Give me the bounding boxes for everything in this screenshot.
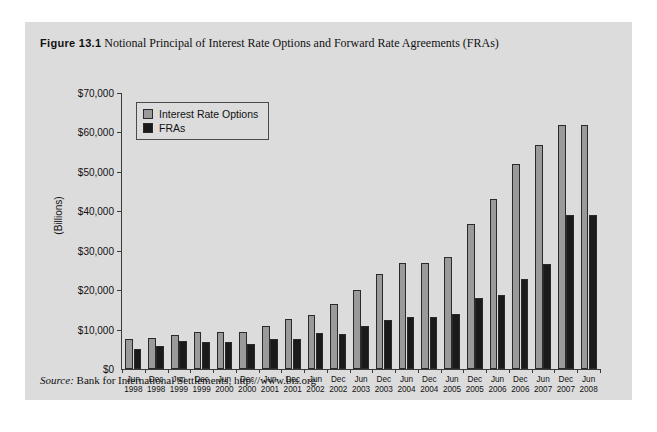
x-axis-tick-mark	[122, 369, 123, 373]
bar-group	[512, 93, 528, 369]
x-axis-tick-mark	[236, 369, 237, 373]
y-axis-tick-label: $30,000	[42, 245, 122, 256]
bar-interest-rate-options	[490, 199, 498, 369]
bar-group	[467, 93, 483, 369]
bar-fras	[134, 349, 142, 369]
bar-fras	[339, 334, 347, 369]
bar-interest-rate-options	[353, 290, 361, 369]
bar-interest-rate-options	[444, 257, 452, 369]
y-axis-tick-mark	[117, 330, 122, 331]
y-axis-tick-label: $20,000	[42, 285, 122, 296]
bar-group	[308, 93, 324, 369]
legend-item: FRAs	[143, 121, 258, 135]
bar-fras	[270, 339, 278, 369]
x-axis-tick-mark	[509, 369, 510, 373]
bar-group	[421, 93, 437, 369]
bar-fras	[407, 317, 415, 369]
x-axis-tick-mark	[441, 369, 442, 373]
source-word: Source:	[40, 374, 74, 386]
figure-title: Notional Principal of Interest Rate Opti…	[104, 36, 499, 50]
bar-group	[444, 93, 460, 369]
bar-fras	[475, 298, 483, 369]
bar-interest-rate-options	[535, 145, 543, 369]
bar-fras	[293, 339, 301, 369]
x-axis-tick-mark	[259, 369, 260, 373]
y-axis-tick-mark	[117, 290, 122, 291]
y-axis-tick-label: $70,000	[42, 88, 122, 99]
bar-interest-rate-options	[376, 274, 384, 369]
y-axis-tick-label: $0	[42, 364, 122, 375]
x-axis-tick-mark	[486, 369, 487, 373]
x-axis-tick-mark	[600, 369, 601, 373]
bar-interest-rate-options	[148, 338, 156, 369]
x-axis-tick-mark	[168, 369, 169, 373]
bar-interest-rate-options	[308, 315, 316, 369]
x-axis-tick-label-month: Jun	[572, 375, 606, 385]
x-axis-tick-mark	[395, 369, 396, 373]
bar-fras	[179, 341, 187, 369]
bar-group	[285, 93, 301, 369]
bar-fras	[361, 326, 369, 369]
bar-interest-rate-options	[285, 319, 293, 369]
bar-fras	[566, 215, 574, 369]
y-axis-tick-mark	[117, 132, 122, 133]
bar-interest-rate-options	[330, 304, 338, 369]
bar-interest-rate-options	[421, 263, 429, 369]
y-axis-tick-label: $60,000	[42, 127, 122, 138]
x-axis-tick-mark	[577, 369, 578, 373]
bar-group	[376, 93, 392, 369]
bar-interest-rate-options	[217, 332, 225, 369]
source-text: Bank for International Settlements, http…	[74, 374, 316, 386]
y-axis-tick-mark	[117, 172, 122, 173]
legend-item: Interest Rate Options	[143, 107, 258, 121]
x-axis-tick-mark	[281, 369, 282, 373]
bar-interest-rate-options	[399, 263, 407, 369]
x-axis-tick-label-year: 2008	[572, 385, 606, 395]
bar-fras	[543, 264, 551, 369]
bar-group	[353, 93, 369, 369]
bar-fras	[384, 320, 392, 369]
y-axis-tick-label: $40,000	[42, 206, 122, 217]
x-axis-tick-mark	[350, 369, 351, 373]
bar-group	[490, 93, 506, 369]
chart-area: (Billions) $70,000$60,000$50,000$40,000$…	[40, 60, 620, 365]
y-axis-tick-mark	[117, 211, 122, 212]
y-axis-tick-mark	[117, 93, 122, 94]
x-axis-tick-mark	[463, 369, 464, 373]
legend-swatch-fras	[143, 123, 153, 133]
x-axis-tick-mark	[532, 369, 533, 373]
x-axis-tick-mark	[554, 369, 555, 373]
bar-fras	[225, 342, 233, 369]
x-axis-tick-mark	[372, 369, 373, 373]
bar-group	[535, 93, 551, 369]
bar-fras	[452, 314, 460, 369]
y-axis-tick-label: $10,000	[42, 324, 122, 335]
bar-interest-rate-options	[558, 125, 566, 369]
bar-fras	[247, 344, 255, 369]
bar-interest-rate-options	[467, 224, 475, 369]
x-axis-tick-mark	[418, 369, 419, 373]
bar-fras	[156, 346, 164, 369]
figure-label: Figure 13.1	[40, 37, 101, 49]
x-axis-tick-label: Jun2008	[572, 375, 606, 394]
bar-fras	[202, 342, 210, 369]
bar-fras	[498, 295, 506, 369]
figure-caption: Figure 13.1 Notional Principal of Intere…	[40, 36, 622, 51]
x-axis-tick-mark	[213, 369, 214, 373]
y-axis-tick-label: $50,000	[42, 166, 122, 177]
bar-fras	[589, 215, 597, 369]
bar-group	[330, 93, 346, 369]
bar-fras	[316, 333, 324, 369]
bar-group	[581, 93, 597, 369]
legend-item-label: Interest Rate Options	[159, 108, 258, 120]
legend-swatch-interest-rate-options	[143, 109, 153, 119]
bar-fras	[430, 317, 438, 369]
bar-interest-rate-options	[239, 332, 247, 369]
bar-interest-rate-options	[262, 326, 270, 369]
bar-interest-rate-options	[512, 164, 520, 369]
bar-interest-rate-options	[171, 335, 179, 369]
figure-panel: Figure 13.1 Notional Principal of Intere…	[25, 22, 632, 400]
bar-group	[558, 93, 574, 369]
bar-interest-rate-options	[125, 339, 133, 369]
x-axis-tick-mark	[304, 369, 305, 373]
